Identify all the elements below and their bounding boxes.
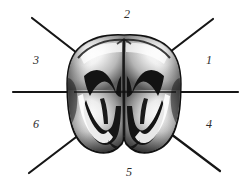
surface-label-4: 4 — [206, 118, 212, 130]
surface-label-6: 6 — [33, 118, 39, 130]
tooth-illustration — [0, 0, 251, 191]
anatomical-figure: 1 2 3 4 5 6 — [0, 0, 251, 191]
surface-label-3: 3 — [33, 54, 39, 66]
surface-label-1: 1 — [206, 54, 212, 66]
surface-label-2: 2 — [124, 8, 130, 20]
surface-label-5: 5 — [126, 166, 132, 178]
molar-crown — [60, 30, 190, 160]
leader-line-upper-right — [166, 19, 213, 55]
